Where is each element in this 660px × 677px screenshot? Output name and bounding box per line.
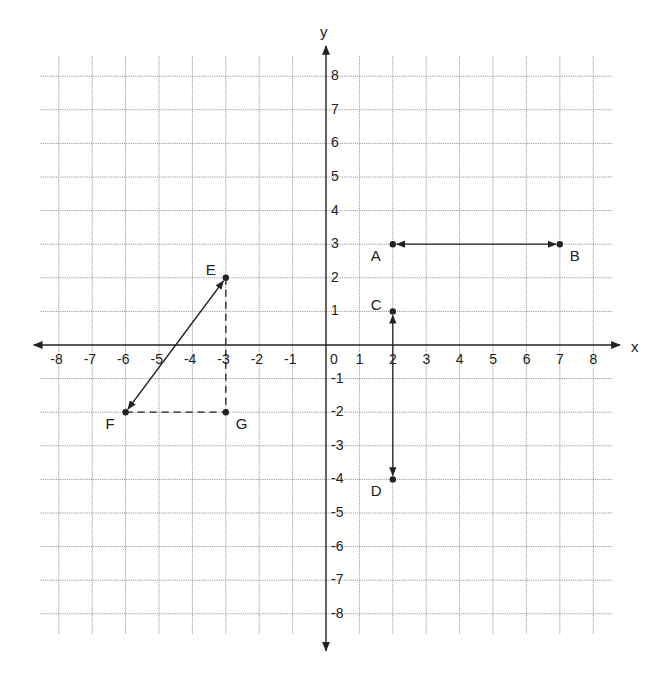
- coordinate-plane: x y -8-7-6-5-4-3-2-1012345678 87654321-1…: [0, 0, 660, 677]
- x-tick-label: -1: [284, 352, 296, 366]
- x-tick-label: 0: [330, 352, 338, 366]
- point-E: [223, 275, 229, 281]
- x-tick-label: -2: [251, 352, 263, 366]
- y-tick-label: -8: [331, 606, 343, 620]
- x-tick-label: 6: [523, 352, 531, 366]
- y-tick-label: -5: [331, 505, 343, 519]
- point-B: [557, 241, 563, 247]
- y-tick-label: 2: [331, 270, 339, 284]
- point-label-D: D: [371, 483, 382, 498]
- x-tick-label: -8: [50, 352, 62, 366]
- x-tick-label: 4: [456, 352, 464, 366]
- x-tick-label: 7: [556, 352, 564, 366]
- y-tick-label: -4: [331, 471, 343, 485]
- point-G: [223, 409, 229, 415]
- point-label-A: A: [371, 248, 381, 263]
- y-tick-label: 4: [331, 203, 339, 217]
- y-tick-label: 3: [331, 236, 339, 250]
- x-tick-label: 5: [489, 352, 497, 366]
- x-tick-label: 3: [422, 352, 430, 366]
- point-A: [390, 241, 396, 247]
- x-tick-label: 8: [589, 352, 597, 366]
- y-tick-label: 5: [331, 169, 339, 183]
- y-tick-label: 6: [331, 135, 339, 149]
- point-label-G: G: [236, 416, 248, 431]
- grid-svg: [0, 0, 660, 677]
- y-tick-label: 7: [331, 102, 339, 116]
- x-tick-label: -5: [151, 352, 163, 366]
- x-tick-label: -3: [217, 352, 229, 366]
- point-label-B: B: [570, 248, 580, 263]
- x-axis-label: x: [631, 339, 639, 354]
- y-tick-label: 8: [331, 68, 339, 82]
- x-tick-label: 1: [356, 352, 364, 366]
- y-tick-label: -3: [331, 438, 343, 452]
- y-tick-label: -6: [331, 539, 343, 553]
- y-tick-label: -1: [331, 371, 343, 385]
- y-tick-label: 1: [331, 303, 339, 317]
- y-axis-label: y: [320, 24, 328, 39]
- point-C: [390, 308, 396, 314]
- point-label-F: F: [106, 416, 115, 431]
- point-label-C: C: [371, 297, 382, 312]
- y-tick-label: -7: [331, 572, 343, 586]
- x-tick-label: 2: [389, 352, 397, 366]
- point-F: [122, 409, 128, 415]
- x-tick-label: -6: [117, 352, 129, 366]
- x-tick-label: -7: [84, 352, 96, 366]
- y-tick-label: -2: [331, 404, 343, 418]
- point-label-E: E: [206, 262, 216, 277]
- x-tick-label: -4: [184, 352, 196, 366]
- point-D: [390, 476, 396, 482]
